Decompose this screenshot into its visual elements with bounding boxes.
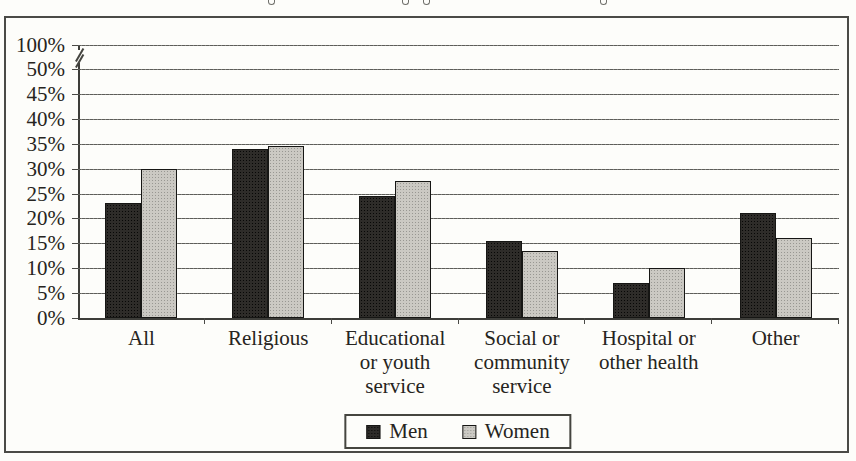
- category-label-line: service: [492, 374, 551, 398]
- legend-item-men: Men: [366, 421, 428, 442]
- bar-women-4: [522, 251, 558, 318]
- y-tick-label-25%: 25%: [0, 183, 65, 204]
- caption-fragment: [423, 0, 430, 5]
- plot-area: [78, 45, 839, 318]
- y-axis-tick: [72, 69, 78, 70]
- x-axis-tick: [584, 318, 585, 324]
- y-axis-tick: [72, 218, 78, 219]
- y-tick-label-0%: 0%: [0, 308, 65, 329]
- category-label-line: Educational: [345, 326, 445, 350]
- y-tick-label-15%: 15%: [0, 233, 65, 254]
- gridline-35%: [78, 144, 839, 145]
- gridline-30%: [78, 169, 839, 170]
- category-label-3: Educationalor youthservice: [332, 326, 459, 398]
- legend: MenWomen: [344, 414, 571, 449]
- category-label-5: Hospital orother health: [585, 326, 712, 374]
- y-axis-tick: [72, 293, 78, 294]
- category-label-line: or youth: [360, 350, 431, 374]
- x-axis-tick: [331, 318, 332, 324]
- category-label-line: Social or: [484, 326, 559, 350]
- y-tick-label-45%: 45%: [0, 83, 65, 104]
- category-label-2: Religious: [205, 326, 332, 350]
- category-label-6: Other: [712, 326, 839, 350]
- x-axis-tick: [711, 318, 712, 324]
- gridline-100%: [78, 45, 839, 46]
- x-axis-tick: [204, 318, 205, 324]
- y-axis-tick: [72, 194, 78, 195]
- y-tick-label-20%: 20%: [0, 208, 65, 229]
- x-axis-tick: [458, 318, 459, 324]
- bar-men-1: [105, 203, 141, 318]
- y-tick-label-30%: 30%: [0, 158, 65, 179]
- bar-men-2: [232, 149, 268, 318]
- category-label-line: All: [128, 326, 155, 350]
- bar-men-5: [613, 283, 649, 318]
- category-label-line: Hospital or: [602, 326, 696, 350]
- gridline-20%: [78, 218, 839, 219]
- bar-women-5: [649, 268, 685, 318]
- y-axis-tick: [72, 94, 78, 95]
- legend-swatch-women: [462, 425, 476, 439]
- gridline-10%: [78, 268, 839, 269]
- legend-label: Women: [485, 421, 550, 442]
- y-axis-line: [78, 45, 80, 318]
- caption-fragment: [268, 0, 275, 5]
- caption-fragment: [402, 0, 409, 5]
- cropped-caption-fragments: [0, 0, 856, 7]
- category-label-line: Religious: [228, 326, 309, 350]
- gridline-45%: [78, 94, 839, 95]
- caption-fragment: [600, 0, 607, 5]
- y-tick-label-40%: 40%: [0, 108, 65, 129]
- gridline-50%: [78, 69, 839, 70]
- gridline-15%: [78, 243, 839, 244]
- y-tick-label-5%: 5%: [0, 283, 65, 304]
- category-label-line: community: [474, 350, 570, 374]
- y-axis-tick: [72, 318, 78, 319]
- gridline-25%: [78, 194, 839, 195]
- y-tick-label-35%: 35%: [0, 133, 65, 154]
- bar-women-1: [141, 169, 177, 318]
- category-label-1: All: [78, 326, 205, 350]
- y-axis-tick: [72, 243, 78, 244]
- y-tick-label-10%: 10%: [0, 258, 65, 279]
- y-tick-label-100%: 100%: [0, 35, 65, 56]
- category-label-4: Social orcommunityservice: [459, 326, 586, 398]
- gridline-5%: [78, 293, 839, 294]
- bar-men-6: [740, 213, 776, 318]
- gridline-40%: [78, 119, 839, 120]
- y-axis-tick: [72, 144, 78, 145]
- gridline-0%: [78, 318, 839, 320]
- y-tick-label-50%: 50%: [0, 59, 65, 80]
- category-label-line: service: [365, 374, 424, 398]
- bar-men-3: [359, 196, 395, 318]
- scanned-bar-chart-page: 100%50%45%40%35%30%25%20%15%10%5%0% AllR…: [0, 0, 856, 461]
- category-label-line: other health: [599, 350, 699, 374]
- legend-label: Men: [389, 421, 428, 442]
- legend-item-women: Women: [462, 421, 550, 442]
- category-label-line: Other: [752, 326, 800, 350]
- y-axis-tick: [72, 268, 78, 269]
- y-axis-tick: [72, 45, 78, 46]
- y-axis-tick: [72, 169, 78, 170]
- bar-women-3: [395, 181, 431, 318]
- bar-women-6: [776, 238, 812, 318]
- legend-swatch-men: [366, 425, 380, 439]
- y-axis-tick: [72, 119, 78, 120]
- chart-frame: 100%50%45%40%35%30%25%20%15%10%5%0% AllR…: [4, 16, 849, 453]
- x-axis-tick: [838, 318, 839, 324]
- bar-women-2: [268, 146, 304, 318]
- bar-men-4: [486, 241, 522, 318]
